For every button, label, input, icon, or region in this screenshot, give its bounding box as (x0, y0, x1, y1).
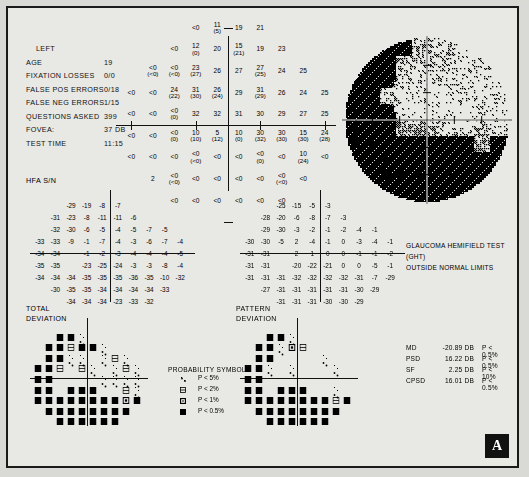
deviation-value: 0 (342, 262, 346, 269)
sensitivity-value: <0(0) (171, 108, 179, 120)
sensitivity-retest: (32) (255, 136, 266, 142)
grayscale-axis-label: 30° (346, 120, 358, 127)
deviation-value: -35 (51, 262, 60, 269)
sensitivity-value: <0 (278, 154, 286, 160)
sensitivity-primary: <0 (299, 176, 307, 182)
sensitivity-retest: (30) (298, 136, 309, 142)
deviation-value: -35 (98, 274, 107, 281)
sensitivity-primary: 27 (300, 111, 307, 117)
deviation-value: -11 (113, 214, 122, 221)
deviation-value: -4 (177, 262, 183, 269)
sensitivity-value: 10(24) (298, 151, 309, 163)
deviation-value: -32 (176, 274, 185, 281)
deviation-value: -34 (129, 286, 138, 293)
sensitivity-value: 10(0) (235, 130, 243, 142)
deviation-value: -31 (276, 274, 285, 281)
deviation-value: -31 (323, 286, 332, 293)
sensitivity-retest: (0) (171, 136, 179, 142)
prob-symbol-p5 (288, 364, 295, 371)
sensitivity-primary: 19 (257, 46, 264, 52)
deviation-value: -4 (162, 250, 168, 257)
deviation-value: -31 (276, 298, 285, 305)
index-value: 2.25 DB (432, 366, 474, 373)
sensitivity-primary: 24 (278, 68, 285, 74)
deviation-value: -34 (66, 298, 75, 305)
grayscale-canvas (342, 32, 512, 208)
deviation-value: -31 (261, 262, 270, 269)
prob-symbol-p05 (180, 409, 186, 416)
vertical-axis (297, 318, 298, 426)
sensitivity-value: 15(21) (233, 43, 244, 55)
deviation-value: -5 (99, 226, 105, 233)
sensitivity-value: 27 (235, 68, 242, 74)
axis-tick (260, 121, 261, 130)
prob-symbol-p5 (133, 375, 140, 382)
parameter-label: TEST TIME (26, 139, 66, 148)
deviation-value: -5 (278, 238, 284, 245)
screenshot-root: LEFT AGE19FIXATION LOSSES0/0FALSE POS ER… (0, 0, 529, 477)
legend-text: P < 5% (198, 374, 219, 381)
vertical-axis (87, 318, 88, 426)
prob-symbol-p5 (89, 364, 96, 371)
deviation-value: -36 (129, 274, 138, 281)
deviation-value: -34 (144, 286, 153, 293)
deviation-value: -4 (356, 226, 362, 233)
sensitivity-retest: (0) (235, 136, 243, 142)
deviation-value: -34 (82, 298, 91, 305)
index-key: SF (406, 366, 415, 373)
prob-symbol-p5 (100, 353, 107, 360)
prob-symbol-p05 (310, 411, 317, 429)
deviation-value: -1 (325, 226, 331, 233)
deviation-value: -30 (354, 286, 363, 293)
deviation-value: 0 (342, 250, 346, 257)
prob-symbol-p5 (67, 353, 74, 360)
prob-symbol-p05 (67, 411, 74, 429)
sensitivity-retest: (<0) (276, 179, 287, 185)
sensitivity-value: <0(<0) (190, 151, 201, 163)
sensitivity-primary: <0 (128, 154, 136, 160)
deviation-value: -34 (98, 298, 107, 305)
deviation-value: -7 (325, 214, 331, 221)
deviation-value: -7 (115, 202, 121, 209)
deviation-value: -29 (354, 298, 363, 305)
sensitivity-value: 27(25) (255, 65, 266, 77)
sensitivity-value: 21 (257, 25, 264, 31)
sensitivity-value: <0 (128, 111, 136, 117)
sensitivity-value: <0 (192, 25, 200, 31)
sensitivity-value: 27 (300, 111, 307, 117)
deviation-value: -5 (309, 202, 315, 209)
deviation-value: -31 (339, 286, 348, 293)
sensitivity-primary: 30 (257, 111, 264, 117)
deviation-value: -32 (292, 274, 301, 281)
sensitivity-value: <0(0) (256, 151, 264, 163)
deviation-value: -6 (131, 214, 137, 221)
sensitivity-primary: 32 (192, 111, 199, 117)
parameter-label: FOVEA: (26, 125, 54, 134)
sensitivity-value: 32 (192, 111, 199, 117)
sensitivity-value: <0 (192, 176, 200, 182)
sensitivity-value: 30(32) (255, 130, 266, 142)
legend-text: P < 2% (198, 385, 219, 392)
index-value: 16.01 DB (432, 377, 474, 384)
index-value: -20.89 DB (432, 344, 474, 351)
sensitivity-value: 31 (235, 111, 242, 117)
deviation-value: -31 (308, 286, 317, 293)
parameter-label: FALSE NEG ERRORS (26, 98, 104, 107)
deviation-value: -5 (177, 250, 183, 257)
index-key: CPSD (406, 377, 425, 384)
deviation-value: -29 (386, 274, 395, 281)
deviation-value: -3 (146, 262, 152, 269)
pattern-deviation-numeric-grid: -25-15-5-3-28-20-6-8-7-3-29-30-3-2-1-2-4… (240, 190, 405, 302)
sensitivity-retest: (28) (319, 136, 330, 142)
deviation-value: -29 (370, 286, 379, 293)
sensitivity-value: <0 (299, 176, 307, 182)
sensitivity-value: <0(0) (171, 130, 179, 142)
deviation-value: 2 (295, 238, 299, 245)
prob-symbol-p2 (78, 358, 85, 376)
deviation-value: -5 (131, 226, 137, 233)
deviation-value: -33 (129, 298, 138, 305)
sensitivity-value: <0 (235, 176, 243, 182)
prob-symbol-p5 (111, 375, 118, 382)
legend-text: P < 0.5% (198, 407, 224, 414)
deviation-value: -31 (308, 298, 317, 305)
